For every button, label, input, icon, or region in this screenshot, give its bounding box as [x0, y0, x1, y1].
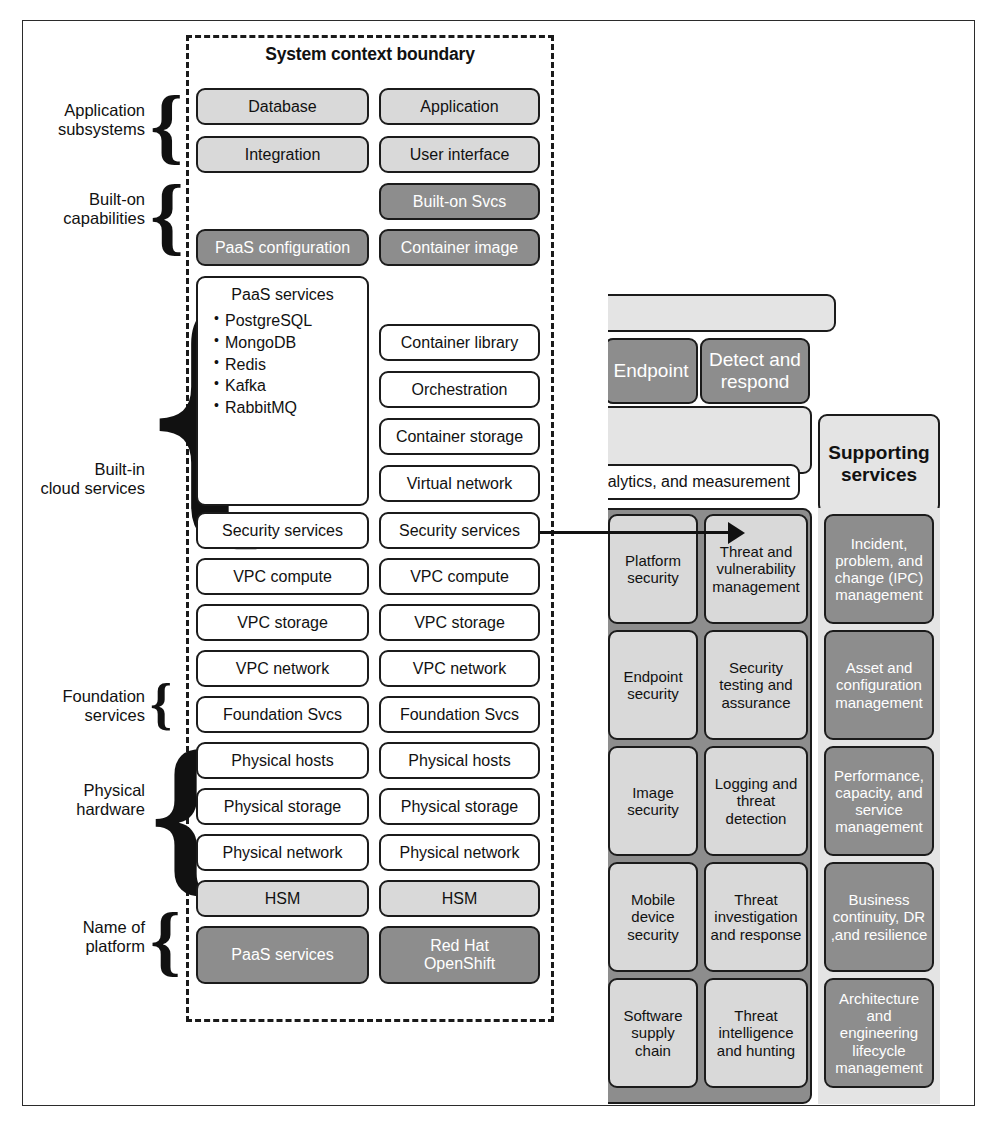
list-item: PostgreSQL [214, 310, 367, 332]
platform-name-line2: OpenShift [424, 955, 495, 973]
cell-supporting-1[interactable]: Asset and configuration management [824, 630, 934, 740]
bracket-label-line2: capabilities [63, 209, 145, 227]
cell-detect-respond-1[interactable]: Security testing and assurance [704, 630, 808, 740]
box-right-vpc-compute[interactable]: VPC compute [379, 558, 540, 595]
box-right-physical-network[interactable]: Physical network [379, 834, 540, 871]
header-line1: Supporting [828, 442, 929, 464]
box-right-physical-storage[interactable]: Physical storage [379, 788, 540, 825]
box-right-vpc-storage[interactable]: VPC storage [379, 604, 540, 641]
box-left-physical-hosts[interactable]: Physical hosts [196, 742, 369, 779]
box-right-platform-name[interactable]: Red Hat OpenShift [379, 926, 540, 984]
security-capability-panel: Endpoint Detect and respond nalytics, an… [608, 292, 975, 1106]
box-left-foundation-svcs[interactable]: Foundation Svcs [196, 696, 369, 733]
box-paas-services-list[interactable]: PaaS services PostgreSQL MongoDB Redis K… [196, 276, 369, 506]
list-item: Redis [214, 354, 367, 376]
box-left-physical-storage[interactable]: Physical storage [196, 788, 369, 825]
bracket-label-line2: subsystems [58, 120, 145, 138]
bracket-label-application-subsystems: Application subsystems [0, 101, 145, 139]
panel-header-supporting-services[interactable]: Supporting services [818, 414, 940, 514]
box-left-vpc-storage[interactable]: VPC storage [196, 604, 369, 641]
platform-name-line1: Red Hat [430, 937, 489, 955]
paas-services-title: PaaS services [198, 286, 367, 304]
cell-supporting-0[interactable]: Incident, problem, and change (IPC) mana… [824, 514, 934, 624]
bracket-label-built-in-cloud-services: Built-in cloud services [0, 460, 145, 498]
cell-supporting-4[interactable]: Architecture and engineering lifecycle m… [824, 978, 934, 1088]
connector-line [540, 531, 733, 534]
bracket-label-line2: services [84, 706, 145, 724]
header-line2: services [841, 464, 917, 486]
box-left-vpc-compute[interactable]: VPC compute [196, 558, 369, 595]
diagram-canvas: System context boundary { Application su… [0, 0, 993, 1128]
cell-endpoint-2[interactable]: Image security [608, 746, 698, 856]
bracket-label-line1: Name of [83, 918, 145, 936]
paas-services-items: PostgreSQL MongoDB Redis Kafka RabbitMQ [198, 310, 367, 419]
bracket-label-line1: Application [64, 101, 145, 119]
bracket-label-line2: platform [85, 937, 145, 955]
header-line2: respond [721, 371, 790, 393]
panel-header-endpoint[interactable]: Endpoint [608, 338, 698, 404]
cell-supporting-2[interactable]: Performance, capacity, and service manag… [824, 746, 934, 856]
box-right-foundation-svcs[interactable]: Foundation Svcs [379, 696, 540, 733]
box-paas-configuration[interactable]: PaaS configuration [196, 229, 369, 266]
list-item: MongoDB [214, 332, 367, 354]
box-left-physical-network[interactable]: Physical network [196, 834, 369, 871]
box-left-vpc-network[interactable]: VPC network [196, 650, 369, 687]
panel-analytics-strip: nalytics, and measurement [608, 464, 800, 500]
system-context-boundary-title: System context boundary [186, 44, 554, 65]
box-left-hsm[interactable]: HSM [196, 880, 369, 917]
header-line1: Detect and [709, 349, 801, 371]
box-built-on-svcs[interactable]: Built-on Svcs [379, 183, 540, 220]
cell-endpoint-4[interactable]: Software supply chain [608, 978, 698, 1088]
panel-top-band [608, 294, 836, 332]
bracket-label-line1: Physical [84, 781, 145, 799]
cell-endpoint-3[interactable]: Mobile device security [608, 862, 698, 972]
cell-detect-respond-2[interactable]: Logging and threat detection [704, 746, 808, 856]
box-left-platform-name[interactable]: PaaS services [196, 926, 369, 984]
box-database[interactable]: Database [196, 88, 369, 125]
bracket-label-line2: cloud services [40, 479, 145, 497]
bracket-label-line1: Built-on [89, 190, 145, 208]
box-right-security-services[interactable]: Security services [379, 512, 540, 549]
box-orchestration[interactable]: Orchestration [379, 371, 540, 408]
panel-header-detect-and-respond[interactable]: Detect and respond [700, 338, 810, 404]
bracket-label-line1: Built-in [95, 460, 145, 478]
bracket-label-built-on-capabilities: Built-on capabilities [0, 190, 145, 228]
box-integration[interactable]: Integration [196, 136, 369, 173]
box-left-security-services[interactable]: Security services [196, 512, 369, 549]
box-right-physical-hosts[interactable]: Physical hosts [379, 742, 540, 779]
cell-detect-respond-3[interactable]: Threat investigation and response [704, 862, 808, 972]
cell-supporting-3[interactable]: Business continuity, DR ,and resilience [824, 862, 934, 972]
box-container-storage[interactable]: Container storage [379, 418, 540, 455]
box-right-hsm[interactable]: HSM [379, 880, 540, 917]
cell-endpoint-1[interactable]: Endpoint security [608, 630, 698, 740]
list-item: Kafka [214, 375, 367, 397]
bracket-label-foundation-services: Foundation services [0, 687, 145, 725]
box-right-vpc-network[interactable]: VPC network [379, 650, 540, 687]
box-application[interactable]: Application [379, 88, 540, 125]
connector-arrow-icon [728, 522, 745, 544]
bracket-label-physical-hardware: Physical hardware [0, 781, 145, 819]
bracket-label-name-of-platform: Name of platform [0, 918, 145, 956]
box-container-image[interactable]: Container image [379, 229, 540, 266]
box-virtual-network[interactable]: Virtual network [379, 465, 540, 502]
bracket-application-subsystems: { [150, 84, 183, 168]
cell-detect-respond-4[interactable]: Threat intelligence and hunting [704, 978, 808, 1088]
bracket-label-line2: hardware [76, 800, 145, 818]
list-item: RabbitMQ [214, 397, 367, 419]
bracket-name-of-platform: { [150, 901, 181, 979]
bracket-label-line1: Foundation [62, 687, 145, 705]
box-container-library[interactable]: Container library [379, 324, 540, 361]
box-user-interface[interactable]: User interface [379, 136, 540, 173]
